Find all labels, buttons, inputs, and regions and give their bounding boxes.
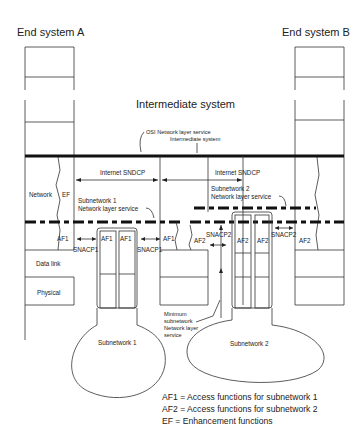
osi-service-label-2: Intermediate system bbox=[170, 136, 221, 142]
af1-label-3: AF1 bbox=[101, 235, 113, 242]
af2-label-4: AF2 bbox=[299, 237, 311, 244]
internet-sndcp-right: Internet SNDCP bbox=[215, 169, 260, 176]
subnet1-service-label: Subnetwork 1 bbox=[78, 197, 117, 204]
legend-ef: EF = Enhancement functions bbox=[162, 416, 273, 426]
subnet2-service-label-2: Network layer service bbox=[211, 193, 272, 201]
legend-af2: AF2 = Access functions for subnetwork 2 bbox=[162, 404, 318, 414]
internet-sndcp-left: Internet SNDCP bbox=[100, 169, 145, 176]
legend-af1: AF1 = Access functions for subnetwork 1 bbox=[162, 392, 318, 402]
network-layer-label: Network bbox=[29, 191, 53, 198]
physical-label: Physical bbox=[37, 289, 60, 297]
subnetwork-2-cloud bbox=[187, 320, 324, 382]
minimum-label-1: Minimum bbox=[164, 311, 187, 317]
minimum-label-4: service bbox=[164, 332, 182, 338]
af2-label-2: AF2 bbox=[237, 237, 249, 244]
subnet1-service-label-2: Network layer service bbox=[78, 205, 139, 213]
subnetwork-1-label: Subnetwork 1 bbox=[98, 339, 137, 346]
subnet2-service-label: Subnetwork 2 bbox=[211, 185, 250, 192]
minimum-label-3: Network layer bbox=[164, 325, 198, 331]
end-system-a-title: End system A bbox=[17, 26, 85, 38]
end-system-b-title: End system B bbox=[282, 26, 350, 38]
minimum-label-2: subnetwork bbox=[164, 318, 193, 324]
af2-label-1: AF2 bbox=[194, 237, 206, 244]
snacp2-label-right: SNACP2 bbox=[271, 231, 297, 238]
osi-service-label: OSI Network layer service bbox=[146, 129, 211, 135]
intermediate-system-title: Intermediate system bbox=[136, 98, 235, 110]
pointer-osi bbox=[140, 132, 144, 152]
af1-label-4: AF1 bbox=[120, 235, 132, 242]
af1-label-1: AF1 bbox=[57, 235, 69, 242]
snacp1-label-left: SNACP1 bbox=[73, 246, 99, 253]
osi-internetworking-diagram: End system A End system B Intermediate s… bbox=[0, 0, 364, 437]
af1-label-2: AF1 bbox=[163, 235, 175, 242]
snacp2-label-left: SNACP2 bbox=[206, 231, 232, 238]
subnetwork-1-cloud bbox=[72, 325, 166, 398]
end-system-b-stack bbox=[295, 47, 344, 305]
data-link-label: Data link bbox=[36, 260, 61, 267]
subnetwork-2-label: Subnetwork 2 bbox=[230, 340, 269, 347]
snacp1-label-right: SNACP1 bbox=[137, 246, 163, 253]
ef-label: EF bbox=[62, 191, 70, 198]
af2-label-3: AF2 bbox=[257, 237, 269, 244]
